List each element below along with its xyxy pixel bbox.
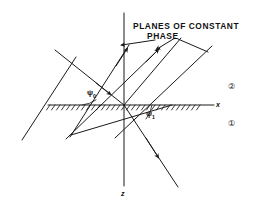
title-line-1: PLANES OF CONSTANT [133, 22, 239, 30]
x-axis-label: x [216, 101, 220, 108]
reflected-ray [124, 38, 181, 105]
figure-canvas: PLANES OF CONSTANT PHASE x z ψ0 ψ1 ② ① [0, 0, 259, 205]
incident-angle-arc [82, 100, 96, 105]
interface-hatching [47, 105, 201, 110]
incident-wavefront-arrow [116, 49, 127, 66]
region-upper-label: ② [228, 83, 235, 91]
region-lower-label: ① [228, 120, 235, 128]
title-line-2: PHASE [147, 32, 179, 40]
transmitted-angle-label: ψ1 [146, 110, 155, 120]
incident-angle-subscript: 0 [93, 93, 96, 99]
incident-angle-label: ψ0 [87, 89, 96, 99]
z-axis-label: z [121, 190, 125, 197]
incident-wavefront-2 [22, 57, 76, 140]
reflected-wavefront-2 [115, 46, 212, 138]
transmitted-angle-subscript: 1 [152, 114, 155, 120]
transmitted-ray-arrow [146, 138, 158, 157]
reflected-wavefront-arrow [146, 50, 158, 62]
leader-line-right [178, 39, 208, 52]
